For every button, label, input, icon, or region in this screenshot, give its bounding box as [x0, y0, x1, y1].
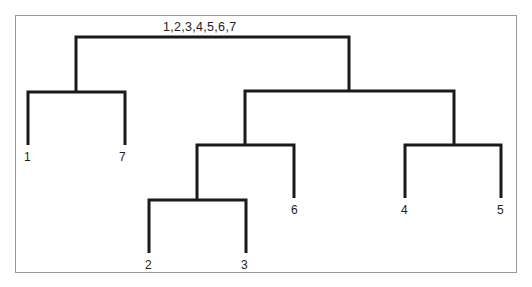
leaf-label-1: 1	[24, 151, 31, 163]
cluster-236-branch	[197, 145, 294, 200]
leaf-label-4: 4	[401, 204, 408, 216]
root-label: 1,2,3,4,5,6,7	[163, 21, 236, 33]
root-branch	[76, 37, 349, 92]
leaf-label-2: 2	[145, 259, 152, 271]
cluster-2-3-branch	[149, 200, 246, 253]
leaf-label-7: 7	[119, 151, 126, 163]
cluster-1-7-branch	[28, 92, 125, 145]
cluster-4-5-branch	[405, 145, 501, 198]
leaf-label-6: 6	[291, 204, 298, 216]
dendrogram-tree	[0, 0, 532, 287]
leaf-label-3: 3	[241, 259, 248, 271]
cluster-23645-branch	[245, 91, 454, 145]
leaf-label-5: 5	[497, 204, 504, 216]
